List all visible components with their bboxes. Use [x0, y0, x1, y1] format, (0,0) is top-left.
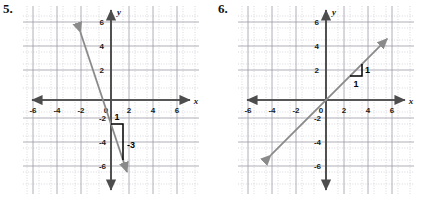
- problem-5: 5.: [0, 0, 215, 201]
- x-tick-label: -4: [53, 106, 61, 115]
- y-tick-label: -6: [314, 162, 322, 171]
- rise-label: 1: [365, 65, 370, 75]
- x-tick-label: 6: [175, 106, 180, 115]
- y-tick-label: -2: [314, 114, 322, 123]
- y-tick-label: 2: [100, 66, 105, 75]
- coordinate-plane-6: x y -6 -4 -2 0 2 4 6 6 4 2 -2 -4 -6 1: [215, 0, 430, 201]
- x-tick-label: 2: [342, 106, 347, 115]
- coordinate-plane-5: x y -6 -4 -2 0 2 4 6 6 4 2 -2 -4 -6: [0, 0, 215, 201]
- rise-label: -3: [127, 140, 135, 150]
- problem-6-graph: x y -6 -4 -2 0 2 4 6 6 4 2 -2 -4 -6 1: [215, 0, 430, 201]
- x-axis-label: x: [193, 96, 199, 106]
- y-axis-label: y: [331, 7, 337, 17]
- x-tick-label: 4: [151, 106, 156, 115]
- x-tick-label: -2: [292, 106, 300, 115]
- x-tick-label: 2: [127, 106, 132, 115]
- y-tick-label: 4: [100, 42, 105, 51]
- y-tick-label: 4: [315, 42, 320, 51]
- x-tick-label: -2: [77, 106, 85, 115]
- y-axis-label: y: [116, 7, 122, 17]
- plotted-line: [271, 39, 387, 155]
- x-tick-label: -6: [29, 106, 37, 115]
- problem-5-graph: x y -6 -4 -2 0 2 4 6 6 4 2 -2 -4 -6: [0, 0, 215, 201]
- y-tick-label: 6: [315, 18, 320, 27]
- run-label: 1: [353, 79, 358, 89]
- x-tick-label: -6: [244, 106, 252, 115]
- y-tick-label: 6: [100, 18, 105, 27]
- y-tick-label: -6: [99, 162, 107, 171]
- x-tick-label: -4: [268, 106, 276, 115]
- x-axis-label: x: [408, 96, 414, 106]
- y-tick-label: -2: [99, 114, 107, 123]
- plotted-line: [80, 32, 127, 172]
- run-label: 1: [114, 112, 119, 122]
- x-tick-label: 4: [366, 106, 371, 115]
- y-tick-label: 2: [315, 66, 320, 75]
- x-tick-label: 6: [390, 106, 395, 115]
- problem-6: 6.: [215, 0, 430, 201]
- y-tick-label: -4: [314, 138, 322, 147]
- y-tick-label: -4: [99, 138, 107, 147]
- worksheet-page: 5.: [0, 0, 430, 201]
